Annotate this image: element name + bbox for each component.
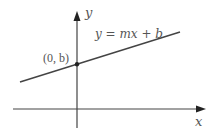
line-equation-label: y = mx + b — [94, 27, 163, 41]
y-intercept-label: (0, b) — [43, 51, 69, 65]
y-axis-arrow-icon — [74, 11, 81, 21]
x-axis-label: x — [195, 114, 203, 129]
line-graph-diagram: y x y = mx + b (0, b) — [0, 0, 215, 138]
y-intercept-point — [75, 62, 79, 66]
x-axis-arrow-icon — [196, 106, 206, 113]
y-axis-label: y — [84, 5, 93, 20]
